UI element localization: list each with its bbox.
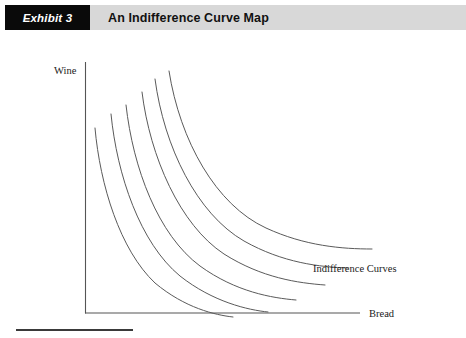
indifference-curve [169,71,372,249]
indifference-curve [95,128,233,317]
exhibit-header-band: Exhibit 3 An Indifference Curve Map [5,5,466,30]
chart-canvas: Wine Bread Indifference Curves [0,30,466,338]
indifference-curves-group [95,71,372,317]
indifference-curve [126,105,296,300]
footer-divider-rule [16,329,133,331]
indifference-curve-figure: Wine Bread Indifference Curves [0,30,466,338]
exhibit-number-label: Exhibit 3 [23,12,73,24]
indifference-curve [155,79,348,268]
indifference-curve [142,92,325,285]
x-axis-label: Bread [369,308,395,319]
indifference-curves-annotation: Indifference Curves [313,263,396,274]
exhibit-title: An Indifference Curve Map [90,5,466,30]
y-axis-label: Wine [54,65,77,76]
indifference-curve [111,114,268,312]
exhibit-number-badge: Exhibit 3 [5,5,90,30]
